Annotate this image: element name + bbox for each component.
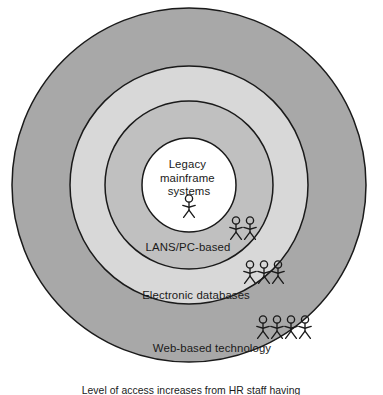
onion-diagram: Legacy mainframe systems LANS/PC-based [0,0,383,395]
core-label-line-2: mainframe [160,172,215,184]
label-legacy-mainframe-systems: Legacy mainframe systems [160,158,218,197]
label-lans-pc-based: LANS/PC-based [146,241,231,253]
concentric-rings-svg: Legacy mainframe systems LANS/PC-based [0,0,383,395]
core-label-line-1: Legacy [169,158,207,170]
label-electronic-databases: Electronic databases [142,289,250,301]
diagram-caption: Level of access increases from HR staff … [82,385,301,395]
label-web-based-technology: Web-based technology [153,342,272,354]
